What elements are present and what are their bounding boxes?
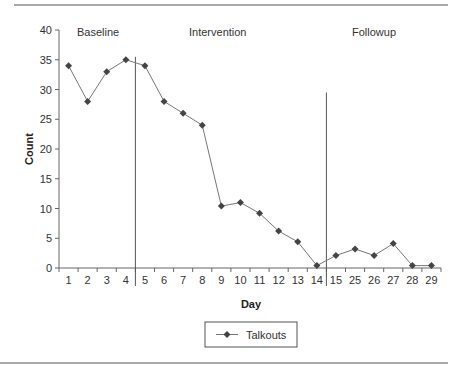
x-tick-label: 3 [104, 274, 110, 286]
legend-label: Talkouts [246, 329, 287, 341]
y-tick-label: 35 [40, 54, 52, 66]
phase-label-followup: Followup [352, 26, 396, 38]
phase-label-intervention: Intervention [189, 26, 246, 38]
data-point-diamond-icon [218, 203, 225, 210]
x-tick-label: 11 [254, 274, 265, 286]
data-point-diamond-icon [141, 62, 148, 69]
x-tick-label: 6 [161, 274, 167, 286]
x-tick-label: 8 [199, 274, 205, 286]
legend: Talkouts [205, 322, 297, 347]
x-tick-label: 25 [349, 274, 361, 286]
data-point-diamond-icon [371, 252, 378, 259]
data-point-diamond-icon [122, 56, 129, 63]
y-tick-label: 5 [46, 232, 52, 244]
y-tick-label: 30 [40, 84, 52, 96]
y-tick-label: 0 [46, 262, 52, 274]
x-tick-label: 1 [65, 274, 71, 286]
data-point-diamond-icon [180, 110, 187, 117]
phase-change-lines [135, 57, 326, 286]
y-tick-label: 25 [40, 113, 52, 125]
x-tick-label: 29 [425, 274, 437, 286]
data-point-diamond-icon [199, 122, 206, 129]
x-tick-label: 14 [311, 274, 323, 286]
series-line [69, 60, 432, 266]
x-tick-label: 5 [142, 274, 148, 286]
x-axis-title: Day [241, 298, 262, 310]
series-talkouts [65, 56, 435, 269]
phase-label-baseline: Baseline [77, 26, 119, 38]
data-point-diamond-icon [103, 68, 110, 75]
data-point-diamond-icon [352, 245, 359, 252]
x-tick-label: 12 [273, 274, 285, 286]
data-point-diamond-icon [161, 98, 168, 105]
data-point-diamond-icon [332, 252, 339, 259]
x-axis-ticks: 1234567891011121314152526272829 [59, 268, 441, 286]
data-point-diamond-icon [84, 98, 91, 105]
y-tick-label: 10 [40, 203, 52, 215]
y-axis-title: Count [23, 133, 35, 165]
x-tick-label: 28 [406, 274, 418, 286]
x-tick-label: 9 [218, 274, 224, 286]
y-tick-label: 40 [40, 24, 52, 36]
y-axis-ticks: 0510152025303540 [40, 24, 59, 274]
x-tick-label: 15 [330, 274, 342, 286]
x-tick-label: 2 [85, 274, 91, 286]
single-subject-line-chart: 0510152025303540 12345678910111213141525… [0, 0, 465, 369]
y-tick-label: 20 [40, 143, 52, 155]
data-point-diamond-icon [65, 62, 72, 69]
y-tick-label: 15 [40, 173, 52, 185]
x-tick-label: 27 [387, 274, 399, 286]
x-tick-label: 4 [123, 274, 129, 286]
x-tick-label: 7 [180, 274, 186, 286]
x-tick-label: 13 [292, 274, 304, 286]
x-tick-label: 26 [368, 274, 380, 286]
data-point-diamond-icon [237, 199, 244, 206]
x-tick-label: 10 [234, 274, 246, 286]
